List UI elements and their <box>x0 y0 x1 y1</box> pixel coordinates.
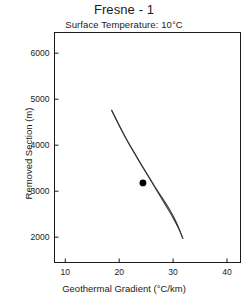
best-estimate-point-marker <box>140 180 147 187</box>
plot-canvas: 10203040 20003000400050006000 <box>0 0 248 304</box>
x-tick-label: 10 <box>61 267 71 277</box>
x-tick-label: 40 <box>222 267 232 277</box>
y-axis-label: Removed Section (m) <box>23 74 34 234</box>
x-axis-label: Geothermal Gradient (°C/km) <box>0 283 248 294</box>
x-tick-label: 20 <box>114 267 124 277</box>
chart-figure: Fresne - 1 Surface Temperature: 10°C 102… <box>0 0 248 304</box>
y-tick-label: 2000 <box>31 232 50 242</box>
y-tick-label: 6000 <box>31 48 50 58</box>
x-tick-label: 30 <box>168 267 178 277</box>
axes-frame <box>55 33 241 263</box>
x-axis-ticks: 10203040 <box>61 259 232 277</box>
data-points <box>140 180 147 187</box>
data-curves <box>112 110 183 238</box>
curve-lower-bound-curve <box>112 110 183 238</box>
